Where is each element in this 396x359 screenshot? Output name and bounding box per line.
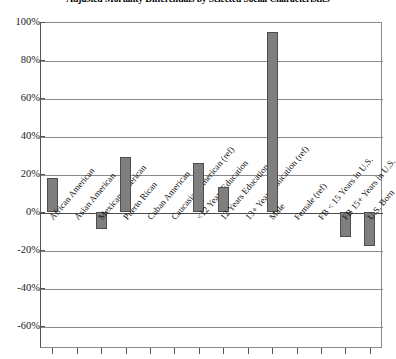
y-axis-tick-label: -40% (4, 283, 40, 293)
y-axis-tick-label: 60% (4, 93, 40, 103)
x-axis-tick-mark (321, 348, 322, 354)
gridline-0 (41, 213, 383, 214)
y-axis-tick-mark (40, 98, 45, 99)
plot-area (40, 22, 382, 348)
y-axis-tick-mark (40, 212, 45, 213)
y-axis-tick-mark (40, 288, 45, 289)
gridline--40 (41, 289, 383, 290)
x-axis-tick-mark (52, 348, 53, 354)
y-axis-tick-label: 0% (4, 207, 40, 217)
y-axis-tick-mark (40, 60, 45, 61)
x-axis-tick-mark (150, 348, 151, 354)
y-axis-tick-mark (40, 136, 45, 137)
x-axis-tick-mark (223, 348, 224, 354)
x-axis-tick-mark (272, 348, 273, 354)
x-axis-tick-mark (101, 348, 102, 354)
gridline--60 (41, 327, 383, 328)
x-axis-tick-mark (248, 348, 249, 354)
gridline-80 (41, 61, 383, 62)
gridline-40 (41, 137, 383, 138)
chart-container: Adjusted Mortality Differentials by Sele… (0, 0, 396, 359)
y-axis-tick-mark (40, 174, 45, 175)
y-axis-tick-label: 100% (4, 17, 40, 27)
y-axis: 100%80%60%40%20%0%-20%-40%-60% (0, 0, 40, 359)
gridline-60 (41, 99, 383, 100)
x-axis-tick-mark (77, 348, 78, 354)
x-axis-tick-mark (297, 348, 298, 354)
x-axis-tick-mark (174, 348, 175, 354)
x-axis-tick-mark (199, 348, 200, 354)
gridline--20 (41, 251, 383, 252)
y-axis-tick-label: 20% (4, 169, 40, 179)
x-axis-tick-mark (126, 348, 127, 354)
x-axis-tick-mark (345, 348, 346, 354)
y-axis-tick-label: 80% (4, 55, 40, 65)
bar (267, 32, 278, 213)
y-axis-tick-label: 40% (4, 131, 40, 141)
y-axis-tick-label: -60% (4, 321, 40, 331)
y-axis-tick-label: -20% (4, 245, 40, 255)
x-axis-tick-mark (370, 348, 371, 354)
chart-title: Adjusted Mortality Differentials by Sele… (0, 0, 396, 6)
y-axis-tick-mark (40, 250, 45, 251)
y-axis-tick-mark (40, 22, 45, 23)
y-axis-tick-mark (40, 326, 45, 327)
